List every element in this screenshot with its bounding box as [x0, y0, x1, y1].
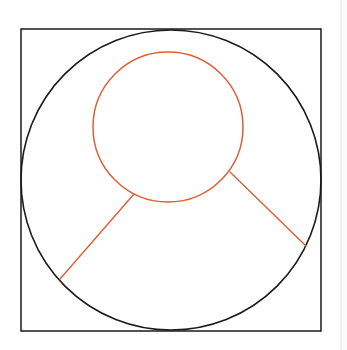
bounding-square: [21, 29, 321, 331]
diagram-canvas: [0, 0, 347, 350]
right-spoke-line: [230, 172, 306, 246]
outer-circle: [21, 30, 321, 330]
left-spoke-line: [60, 194, 134, 279]
inner-circle: [93, 52, 243, 202]
